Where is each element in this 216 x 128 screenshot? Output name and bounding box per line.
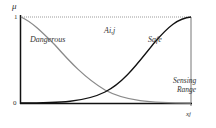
safe-label: Safe — [148, 36, 162, 44]
dangerous-label: Dangerous — [30, 36, 65, 44]
membership-function-plot — [0, 0, 216, 128]
y-tick-zero: 0 — [13, 100, 17, 107]
y-axis-label: μ — [12, 2, 17, 11]
region-label: Ai,j — [104, 27, 115, 35]
y-tick-one: 1 — [14, 14, 18, 21]
x-axis-label: xj — [186, 111, 191, 118]
sensing-range-label-line1: Sensing — [173, 77, 196, 85]
sensing-range-label-line2: Range — [177, 86, 196, 94]
